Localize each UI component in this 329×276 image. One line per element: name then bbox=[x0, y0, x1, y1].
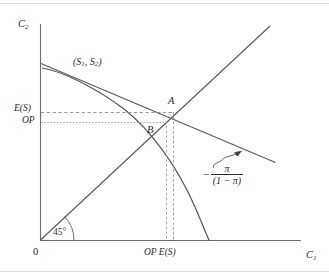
point-b-label: B bbox=[147, 124, 153, 135]
slope-numerator: π bbox=[221, 163, 232, 174]
slope-denominator: (1 − π) bbox=[211, 175, 243, 186]
slope-fraction: π (1 − π) bbox=[211, 163, 243, 186]
endowment-point-label: (S1, S2) bbox=[73, 57, 102, 68]
y-tick-label-op: OP bbox=[22, 116, 35, 126]
x-axis-label: C1 bbox=[306, 249, 317, 262]
angle-45-label: 45° bbox=[53, 228, 66, 238]
y-tick-label-es: E(S) bbox=[14, 104, 31, 114]
slope-minus-sign: − bbox=[203, 168, 209, 180]
budget-slope-annotation: − π (1 − π) bbox=[203, 163, 243, 186]
x-tick-labels: OP E(S) bbox=[144, 248, 176, 258]
budget-line bbox=[41, 64, 276, 163]
annotation-arrow-head bbox=[235, 151, 242, 156]
origin-label: 0 bbox=[33, 246, 38, 257]
y-axis-label: C2 bbox=[18, 18, 29, 31]
figure-canvas: C2 C1 0 (S1, S2) A B E(S) OP OP E(S) 45°… bbox=[0, 0, 329, 276]
point-a-label: A bbox=[168, 95, 174, 106]
diagram-svg bbox=[0, 0, 329, 276]
